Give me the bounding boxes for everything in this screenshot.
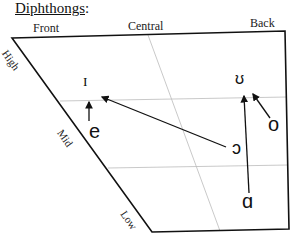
vowel-open-o: ɔ [232,138,241,159]
vowel-o: o [268,113,279,136]
vowel-a: ɑ [242,190,253,213]
vowel-e: e [89,120,100,143]
vowel-I: ɪ [83,72,87,90]
vowel-U: ʊ [235,70,244,88]
